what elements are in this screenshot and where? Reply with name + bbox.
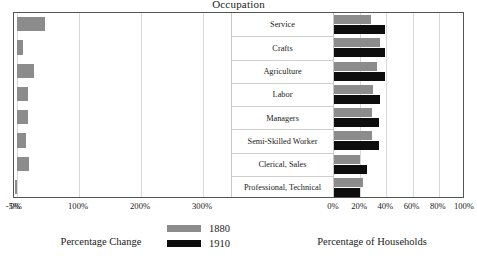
- bar-1910: [334, 118, 379, 127]
- bar-percentage-change: [15, 180, 17, 194]
- percentage-change-row: [14, 13, 231, 36]
- category-label: Semi-Skilled Worker: [232, 130, 333, 152]
- bar-percentage-change: [17, 110, 28, 124]
- bar-1880: [334, 38, 380, 47]
- bar-1910: [334, 25, 385, 34]
- category-label: Agriculture: [232, 61, 333, 83]
- bar-group: [14, 83, 231, 106]
- category-label: Labor: [232, 84, 333, 106]
- axis-tick-label: 100%: [454, 201, 474, 211]
- axis-tick-label: 0%: [327, 201, 338, 211]
- legend-swatch-1880: [167, 225, 201, 232]
- bar-1910: [334, 48, 385, 57]
- category-label: Managers: [232, 107, 333, 129]
- axis-tick-label: 60%: [404, 201, 420, 211]
- households-row: [334, 83, 463, 106]
- bar-group: [14, 60, 231, 83]
- bar-group: [334, 129, 463, 152]
- chart-title: Occupation: [0, 0, 477, 10]
- households-row: [334, 129, 463, 152]
- axis-tick-label: 40%: [378, 201, 394, 211]
- category-label: Service: [232, 13, 333, 36]
- panel-percentage-of-households: [334, 13, 463, 197]
- bar-1880: [334, 178, 363, 187]
- bar-percentage-change: [17, 64, 34, 78]
- legend: 1880 1910: [167, 221, 230, 251]
- bar-percentage-change: [17, 17, 45, 31]
- households-row: [334, 13, 463, 36]
- legend-item-1880: 1880: [167, 221, 230, 236]
- right-panel-bar-rows: [334, 13, 463, 197]
- plot-area: ServiceCraftsAgricultureLaborManagersSem…: [13, 12, 464, 198]
- bar-1910: [334, 188, 360, 197]
- bar-percentage-change: [17, 40, 23, 54]
- category-label-rows: ServiceCraftsAgricultureLaborManagersSem…: [232, 13, 333, 197]
- panel-category-labels: ServiceCraftsAgricultureLaborManagersSem…: [231, 13, 334, 197]
- bar-percentage-change: [17, 87, 28, 101]
- bar-group: [334, 83, 463, 106]
- bar-group: [334, 176, 463, 199]
- category-label-cell: Labor: [232, 83, 333, 106]
- bar-group: [334, 153, 463, 176]
- category-label: Clerical, Sales: [232, 154, 333, 176]
- households-row: [334, 176, 463, 199]
- category-label: Crafts: [232, 37, 333, 59]
- axis-tick-label: 80%: [430, 201, 446, 211]
- percentage-change-row: [14, 106, 231, 129]
- bar-1880: [334, 108, 372, 117]
- households-row: [334, 60, 463, 83]
- bar-percentage-change: [17, 157, 29, 171]
- category-label-cell: Professional, Technical: [232, 176, 333, 199]
- bar-group: [334, 13, 463, 36]
- percentage-change-row: [14, 129, 231, 152]
- chart-figure: Occupation ServiceCraftsAgricultureLabor…: [0, 0, 477, 258]
- bar-group: [14, 36, 231, 59]
- percentage-change-row: [14, 153, 231, 176]
- bar-1880: [334, 131, 372, 140]
- category-label-cell: Semi-Skilled Worker: [232, 129, 333, 152]
- bar-group: [14, 129, 231, 152]
- left-axis-title: Percentage Change: [61, 236, 142, 247]
- bar-1910: [334, 95, 380, 104]
- bar-group: [14, 106, 231, 129]
- bar-group: [334, 60, 463, 83]
- category-label-cell: Crafts: [232, 36, 333, 59]
- category-label: Professional, Technical: [232, 177, 333, 199]
- bar-1880: [334, 85, 373, 94]
- bar-1880: [334, 62, 377, 71]
- households-row: [334, 153, 463, 176]
- bar-1880: [334, 15, 371, 24]
- category-label-cell: Clerical, Sales: [232, 153, 333, 176]
- axis-tick-label: 300%: [192, 201, 212, 211]
- legend-item-1910: 1910: [167, 236, 230, 251]
- percentage-change-row: [14, 176, 231, 199]
- percentage-change-row: [14, 36, 231, 59]
- legend-label-1910: 1910: [209, 238, 230, 249]
- category-label-cell: Agriculture: [232, 60, 333, 83]
- bar-percentage-change: [17, 133, 26, 147]
- axis-tick-label: 0%: [10, 201, 21, 211]
- percentage-change-row: [14, 83, 231, 106]
- bar-1910: [334, 72, 385, 81]
- bar-1910: [334, 165, 367, 174]
- households-row: [334, 36, 463, 59]
- households-row: [334, 106, 463, 129]
- bar-1880: [334, 155, 360, 164]
- legend-swatch-1910: [167, 240, 201, 247]
- bar-group: [334, 106, 463, 129]
- bar-group: [14, 153, 231, 176]
- axis-tick-label: 200%: [130, 201, 150, 211]
- bar-group: [334, 36, 463, 59]
- legend-label-1880: 1880: [209, 223, 230, 234]
- percentage-change-row: [14, 60, 231, 83]
- bar-group: [14, 13, 231, 36]
- axis-tick-label: 20%: [351, 201, 367, 211]
- bar-group: [14, 176, 231, 199]
- right-axis-title: Percentage of Households: [317, 236, 427, 247]
- axis-tick-label: 100%: [68, 201, 88, 211]
- bar-1910: [334, 141, 379, 150]
- left-panel-bar-rows: [14, 13, 231, 197]
- category-label-cell: Managers: [232, 106, 333, 129]
- panel-percentage-change: [14, 13, 231, 197]
- category-label-cell: Service: [232, 13, 333, 36]
